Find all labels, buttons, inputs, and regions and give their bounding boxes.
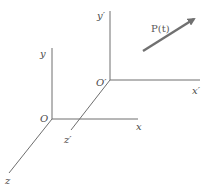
reference-frames-diagram: O y x z O′ y′ x′ z′ P(t) xyxy=(0,0,206,188)
y-prime-axis-label: y′ xyxy=(96,10,106,21)
origin-o-label: O xyxy=(40,113,48,124)
vector-label: P(t) xyxy=(151,23,170,34)
frame-o-prime: O′ y′ x′ z′ xyxy=(63,10,201,145)
frame-o: O y x z xyxy=(4,48,142,186)
x-prime-axis-label: x′ xyxy=(192,85,201,96)
z-axis-label: z xyxy=(4,175,11,186)
vector-p: P(t) xyxy=(143,19,194,51)
z-axis xyxy=(9,119,52,173)
z-prime-axis-label: z′ xyxy=(63,134,72,145)
x-axis-label: x xyxy=(136,121,142,132)
y-axis-label: y xyxy=(39,48,46,59)
origin-o-prime-label: O′ xyxy=(96,77,107,88)
